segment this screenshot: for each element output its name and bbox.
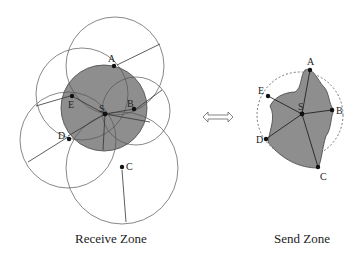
receive-zone-caption: Receive Zone xyxy=(75,231,147,247)
node-a xyxy=(112,64,116,68)
send-node-c xyxy=(316,165,320,169)
send-label-c: C xyxy=(320,171,327,182)
node-e xyxy=(70,94,74,98)
send-label-d: D xyxy=(256,134,263,145)
send-label-a: A xyxy=(307,56,315,67)
label-s: S xyxy=(99,103,105,114)
label-c: C xyxy=(126,161,133,172)
double-arrow-icon xyxy=(203,112,233,122)
send-zone-shaded-area xyxy=(268,69,334,168)
label-a: A xyxy=(108,53,116,64)
label-b: B xyxy=(127,98,134,109)
send-zone-figure: A B C D E S xyxy=(256,56,343,182)
receive-zone-figure: A B C D E S xyxy=(20,17,178,224)
send-node-d xyxy=(264,137,268,141)
send-node-a xyxy=(308,68,312,72)
node-c xyxy=(120,165,124,169)
send-node-b xyxy=(330,108,334,112)
send-label-b: B xyxy=(336,105,343,116)
send-node-s xyxy=(300,112,305,117)
send-label-s: S xyxy=(298,101,304,112)
label-d: D xyxy=(58,130,65,141)
diagram-canvas: A B C D E S A B C D E S xyxy=(0,0,358,258)
send-label-e: E xyxy=(258,85,264,96)
label-e: E xyxy=(68,99,74,110)
node-d xyxy=(67,137,71,141)
send-node-e xyxy=(266,94,270,98)
send-zone-caption: Send Zone xyxy=(274,231,330,247)
